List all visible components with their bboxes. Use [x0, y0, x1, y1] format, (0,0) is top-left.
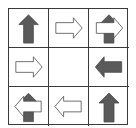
- grid-cell-r0-c0: [9, 9, 49, 48]
- grid-cell-r2-c0: [9, 87, 49, 126]
- arrow-up-dark-icon: [19, 15, 38, 43]
- arrow-up-dark-icon: [99, 93, 119, 122]
- grid-cell-r1-c2: [89, 48, 129, 87]
- cell-arrows: [89, 48, 129, 86]
- cell-arrows: [89, 9, 129, 47]
- empty-cell: [49, 48, 88, 86]
- grid-3x3: [8, 8, 128, 125]
- arrow-left-light-icon: [55, 96, 81, 116]
- grid-cell-r2-c2: [89, 87, 129, 126]
- grid-cell-r2-c1: [49, 87, 89, 126]
- cell-arrows: [89, 87, 129, 126]
- cell-arrows: [49, 9, 88, 47]
- cell-arrows: [9, 48, 48, 86]
- arrow-right-light-icon: [56, 18, 82, 38]
- arrow-right-light-icon: [16, 57, 42, 77]
- cell-arrows: [49, 87, 88, 126]
- grid-cell-r1-c0: [9, 48, 49, 87]
- grid-cell-r1-c1: [49, 48, 89, 87]
- grid-cell-r0-c2: [89, 9, 129, 48]
- grid-cell-r0-c1: [49, 9, 89, 48]
- cell-arrows: [9, 9, 48, 47]
- cell-arrows: [9, 87, 48, 126]
- arrow-puzzle-grid: [8, 8, 128, 125]
- arrow-left-dark-icon: [95, 57, 121, 77]
